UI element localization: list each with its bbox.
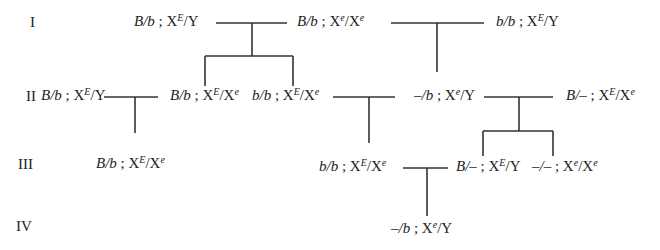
- separator: /X: [578, 158, 593, 174]
- autosomal-genotype: B/b: [170, 87, 191, 103]
- separator: /X: [367, 158, 382, 174]
- allele: e: [382, 157, 386, 168]
- chromosome: Y: [464, 87, 475, 103]
- autosomal-genotype: –/b: [391, 220, 410, 236]
- separator: /X: [345, 13, 360, 29]
- autosomal-genotype: B/–: [456, 158, 477, 174]
- separator: /X: [300, 87, 315, 103]
- autosomal-genotype: –/–: [532, 158, 551, 174]
- individual-II-4: –/b ; Xe/Y: [414, 88, 475, 103]
- separator: ; X: [271, 87, 294, 103]
- autosomal-genotype: –/b: [414, 87, 433, 103]
- individual-I-1: B/b ; XE/Y: [134, 14, 198, 29]
- separator: ; X: [515, 13, 538, 29]
- allele: e: [160, 154, 164, 165]
- separator: ; X: [433, 87, 456, 103]
- chromosome: Y: [95, 87, 106, 103]
- chromosome: Y: [441, 220, 452, 236]
- separator: /X: [145, 155, 160, 171]
- separator: ; X: [410, 220, 433, 236]
- separator: ; X: [587, 87, 610, 103]
- autosomal-genotype: B/b: [134, 13, 155, 29]
- autosomal-genotype: b/b: [252, 87, 271, 103]
- separator: ; X: [551, 158, 574, 174]
- individual-III-3: B/– ; XE/Y: [456, 159, 520, 174]
- individual-I-2: B/b ; Xe/Xe: [297, 14, 364, 29]
- autosomal-genotype: B/b: [41, 87, 62, 103]
- separator: ; X: [338, 158, 361, 174]
- allele: e: [234, 86, 238, 97]
- individual-IV-1: –/b ; Xe/Y: [391, 221, 452, 236]
- chromosome: Y: [188, 13, 199, 29]
- separator: ; X: [318, 13, 341, 29]
- allele: e: [360, 12, 364, 23]
- individual-III-2: b/b ; XE/Xe: [319, 159, 386, 174]
- chromosome: Y: [510, 158, 521, 174]
- individual-III-1: B/b ; XE/Xe: [96, 156, 165, 171]
- pedigree-lines: [0, 0, 660, 250]
- individual-II-2: B/b ; XE/Xe: [170, 88, 239, 103]
- chromosome: Y: [548, 13, 559, 29]
- allele: e: [315, 86, 319, 97]
- allele: e: [593, 157, 597, 168]
- separator: ; X: [477, 158, 500, 174]
- separator: ; X: [117, 155, 140, 171]
- individual-I-3: b/b ; XE/Y: [496, 14, 559, 29]
- separator: /X: [219, 87, 234, 103]
- individual-II-5: B/– ; XE/Xe: [566, 88, 635, 103]
- autosomal-genotype: B/b: [297, 13, 318, 29]
- autosomal-genotype: B/b: [96, 155, 117, 171]
- separator: ; X: [191, 87, 214, 103]
- individual-II-1: B/b ; XE/Y: [41, 88, 105, 103]
- separator: /X: [615, 87, 630, 103]
- autosomal-genotype: b/b: [496, 13, 515, 29]
- autosomal-genotype: b/b: [319, 158, 338, 174]
- individual-III-4: –/– ; Xe/Xe: [532, 159, 598, 174]
- separator: ; X: [62, 87, 85, 103]
- separator: ; X: [155, 13, 178, 29]
- autosomal-genotype: B/–: [566, 87, 587, 103]
- individual-II-3: b/b ; XE/Xe: [252, 88, 319, 103]
- allele: e: [630, 86, 634, 97]
